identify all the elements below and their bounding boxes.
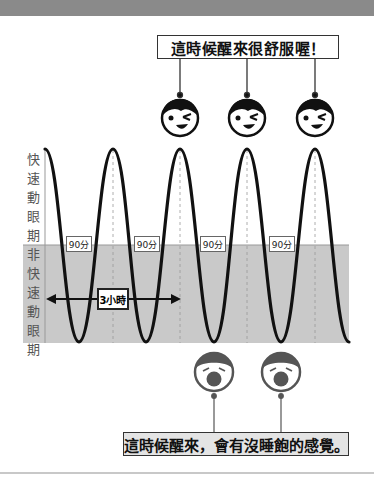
happy-wink-face-icon: [162, 99, 198, 136]
cycle-duration-label: 90分: [134, 236, 160, 252]
three-hour-label: 3小時: [97, 288, 129, 310]
top-connectors: [178, 59, 318, 98]
happy-wink-face-icon: [229, 99, 265, 136]
cycle-duration-label: 90分: [269, 236, 295, 252]
good-wake-callout: 這時候醒來很舒服喔！: [157, 35, 339, 59]
nrem-axis-label: 非快速動眼期: [25, 245, 41, 359]
rem-axis-label: 快速動眼期: [25, 150, 41, 245]
cycle-duration-label: 90分: [66, 236, 92, 252]
yawning-face-icon: [262, 353, 300, 391]
yawning-face-icon: [195, 353, 233, 391]
bad-wake-callout: 這時候醒來，會有沒睡飽的感覺。: [123, 432, 349, 456]
sleep-cycle-diagram: [0, 0, 374, 482]
happy-wink-face-icon: [297, 99, 333, 136]
bottom-connectors: [212, 394, 284, 432]
cycle-duration-label: 90分: [200, 236, 226, 252]
footer-divider: [0, 472, 374, 474]
